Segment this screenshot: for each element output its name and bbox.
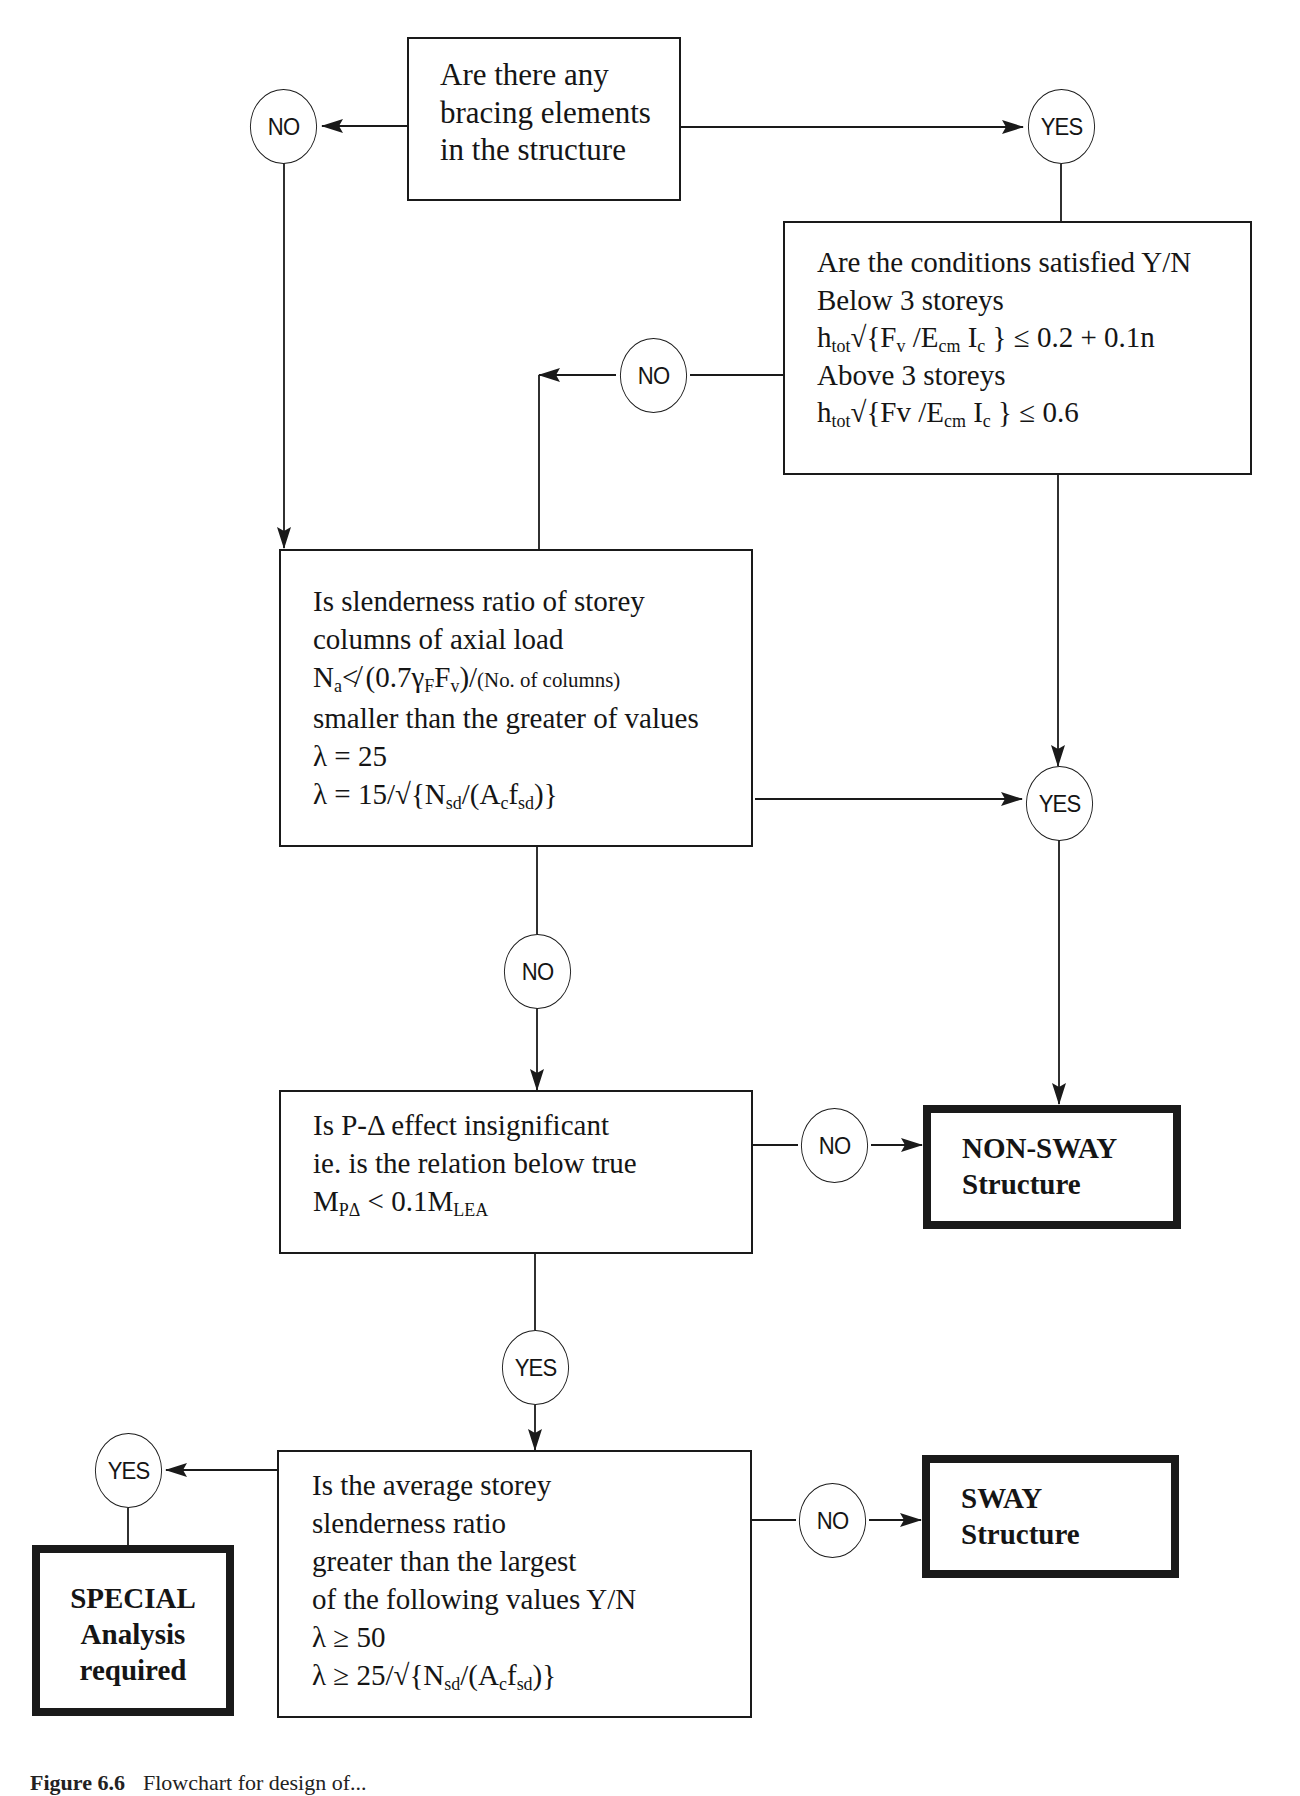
node-bracing-yes: YES (1028, 89, 1095, 164)
node-average-yes: YES (95, 1433, 162, 1508)
terminal-sway-box: SWAY Structure (922, 1455, 1179, 1578)
slenderness-line-2: columns of axial load (313, 620, 699, 658)
conditions-formula-above: htot√{Fv /Ecm Ic } ≤ 0.6 (817, 394, 1191, 432)
p-delta-line-2: ie. is the relation below true (313, 1144, 637, 1182)
node-nonsway-yes: YES (1026, 766, 1093, 841)
average-line-2: slenderness ratio (312, 1504, 636, 1542)
decision-bracing-box: Are there any bracing elements in the st… (407, 37, 681, 201)
slenderness-line-5: λ = 25 (313, 737, 699, 775)
sway-line-2: Structure (961, 1516, 1080, 1552)
conditions-line-2: Below 3 storeys (817, 282, 1191, 320)
decision-average-slenderness-box: Is the average storey slenderness ratio … (277, 1450, 752, 1718)
bracing-line-3: in the structure (440, 131, 651, 169)
average-line-1: Is the average storey (312, 1466, 636, 1504)
node-average-no: NO (799, 1483, 866, 1558)
p-delta-line-1: Is P-Δ effect insignificant (313, 1106, 637, 1144)
caption-label: Figure 6.6 (30, 1770, 125, 1795)
decision-slenderness-box: Is slenderness ratio of storey columns o… (279, 549, 753, 847)
conditions-formula-below: htot√{Fv /Ecm Ic } ≤ 0.2 + 0.1n (817, 319, 1191, 357)
sway-line-1: SWAY (961, 1480, 1080, 1516)
decision-conditions-box: Are the conditions satisfied Y/N Below 3… (783, 221, 1252, 475)
node-p-delta-yes: YES (502, 1330, 569, 1405)
conditions-line-4: Above 3 storeys (817, 357, 1191, 395)
non-sway-line-1: NON-SWAY (962, 1130, 1117, 1166)
average-line-4: of the following values Y/N (312, 1580, 636, 1618)
average-line-3: greater than the largest (312, 1542, 636, 1580)
bracing-line-1: Are there any (440, 56, 651, 94)
non-sway-line-2: Structure (962, 1166, 1117, 1202)
slenderness-lambda-formula: λ = 15/√{Nsd/(Acfsd)} (313, 775, 699, 813)
node-slenderness-no: NO (504, 934, 571, 1009)
slenderness-axial-load-formula: Na≮ (0.7γFFv)/(No. of columns) (313, 658, 699, 699)
special-line-2: Analysis (40, 1616, 226, 1652)
node-bracing-no: NO (250, 89, 317, 164)
node-conditions-no: NO (620, 338, 687, 413)
special-line-1: SPECIAL (40, 1580, 226, 1616)
average-lambda-formula: λ ≥ 25/√{Nsd/(Acfsd)} (312, 1656, 636, 1694)
figure-caption: Figure 6.6Flowchart for design of... (30, 1770, 367, 1796)
caption-text: Flowchart for design of... (143, 1770, 367, 1795)
decision-p-delta-box: Is P-Δ effect insignificant ie. is the r… (279, 1090, 753, 1254)
slenderness-line-4: smaller than the greater of values (313, 699, 699, 737)
p-delta-formula: MPΔ < 0.1MLEA (313, 1182, 637, 1220)
conditions-line-1: Are the conditions satisfied Y/N (817, 244, 1191, 282)
node-p-delta-no: NO (801, 1108, 868, 1183)
terminal-non-sway-box: NON-SWAY Structure (923, 1105, 1181, 1229)
average-line-5: λ ≥ 50 (312, 1618, 636, 1656)
slenderness-line-1: Is slenderness ratio of storey (313, 582, 699, 620)
bracing-line-2: bracing elements (440, 94, 651, 132)
terminal-special-analysis-box: SPECIAL Analysis required (32, 1545, 234, 1716)
special-line-3: required (40, 1652, 226, 1688)
